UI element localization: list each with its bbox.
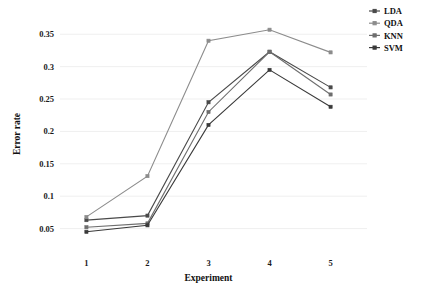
y-tick-label-0.25: 0.25: [39, 94, 54, 104]
x-tick-label-3: 3: [206, 258, 210, 268]
y-tick-label-0.1: 0.1: [43, 191, 54, 201]
data-point-knn-4: [268, 50, 271, 53]
legend-marker-qda: [373, 22, 376, 25]
y-tick-label-0.15: 0.15: [39, 159, 54, 169]
legend-label-knn: KNN: [384, 31, 404, 41]
data-point-qda-2: [146, 175, 149, 178]
data-point-svm-2: [146, 224, 149, 227]
legend-label-svm: SVM: [384, 43, 403, 53]
data-point-svm-3: [207, 123, 210, 126]
chart-container: 0.050.10.150.20.250.30.35 12345 Error ra…: [0, 0, 430, 296]
y-tick-label-0.3: 0.3: [43, 62, 54, 72]
x-tick-label-4: 4: [267, 258, 272, 268]
data-point-knn-1: [85, 226, 88, 229]
x-tick-label-1: 1: [84, 258, 88, 268]
x-tick-label-2: 2: [145, 258, 149, 268]
legend-label-qda: QDA: [384, 18, 404, 28]
data-point-qda-3: [207, 39, 210, 42]
legend-marker-knn: [373, 34, 376, 37]
data-point-lda-3: [207, 101, 210, 104]
data-point-knn-5: [329, 93, 332, 96]
chart-background: [0, 0, 430, 296]
data-point-svm-1: [85, 230, 88, 233]
data-point-knn-3: [207, 110, 210, 113]
legend-marker-lda: [373, 9, 376, 12]
data-point-svm-5: [329, 105, 332, 108]
data-point-qda-1: [85, 215, 88, 218]
data-point-lda-2: [146, 214, 149, 217]
legend-label-lda: LDA: [384, 6, 403, 16]
x-tick-label-5: 5: [328, 258, 332, 268]
data-point-qda-5: [329, 51, 332, 54]
y-tick-label-0.2: 0.2: [43, 126, 54, 136]
x-axis-title: Experiment: [184, 273, 233, 283]
data-point-lda-1: [85, 219, 88, 222]
legend-marker-svm: [373, 46, 376, 49]
y-axis-title: Error rate: [12, 113, 22, 155]
y-tick-label-0.05: 0.05: [39, 224, 54, 234]
line-chart: 0.050.10.150.20.250.30.35 12345 Error ra…: [0, 0, 430, 296]
data-point-svm-4: [268, 68, 271, 71]
y-tick-label-0.35: 0.35: [39, 29, 54, 39]
data-point-qda-4: [268, 28, 271, 31]
data-point-lda-5: [329, 86, 332, 89]
